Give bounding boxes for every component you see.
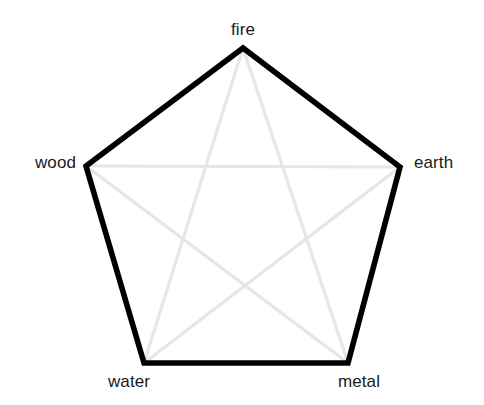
star-edge-wood-earth [86, 166, 400, 167]
node-label-wood: wood [35, 153, 76, 172]
wuxing-diagram: fire wood earth water metal [0, 0, 484, 405]
pentagon-outline [86, 48, 400, 363]
star-edge-group [86, 48, 400, 363]
node-label-earth: earth [414, 153, 453, 172]
star-edge-metal-wood [86, 166, 348, 363]
star-edge-water-fire [144, 48, 243, 363]
pentagram-canvas [0, 0, 484, 405]
node-label-fire: fire [231, 20, 255, 39]
node-label-water: water [108, 372, 150, 391]
star-edge-earth-water [144, 167, 400, 363]
node-label-metal: metal [338, 372, 380, 391]
star-edge-fire-metal [243, 48, 348, 363]
pentagon-outline-group [86, 48, 400, 363]
